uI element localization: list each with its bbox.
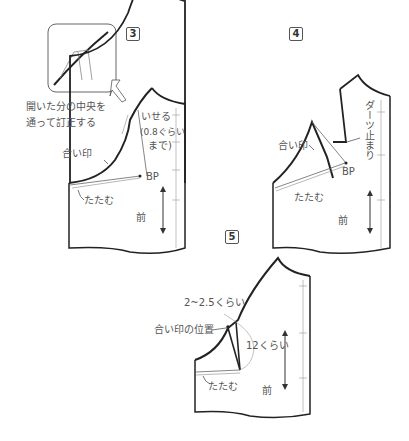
ease-amount-label: (0.8ぐらい <box>140 126 185 138</box>
notch-label: 合い印 <box>62 148 92 160</box>
length-label: 12くらい <box>246 340 289 352</box>
fold-label: たたむ <box>294 192 324 204</box>
step-number-3: 3 <box>126 27 140 41</box>
bp-label: BP <box>342 166 355 178</box>
ease-until-label: まで) <box>148 140 172 152</box>
front-label: 前 <box>262 385 272 397</box>
instruction-line-2: 通って訂正する <box>26 117 96 129</box>
fold-label: たたむ <box>208 381 238 393</box>
dart-end-label: ダーツ止まり <box>362 100 374 160</box>
fold-label: たたむ <box>84 195 114 207</box>
bp-label: BP <box>146 171 159 183</box>
front-label: 前 <box>136 212 146 224</box>
notch-position-label: 合い印の位置 <box>154 324 214 336</box>
step-number-4: 4 <box>289 27 303 41</box>
offset-label: 2~2.5くらい <box>184 297 245 309</box>
instruction-line-1: 開いた分の中央を <box>26 101 106 113</box>
notch-label: 合い印 <box>278 140 308 152</box>
panel-5-pattern <box>195 258 310 418</box>
step-number-5: 5 <box>225 230 239 244</box>
ease-label: いせる <box>141 111 171 123</box>
front-label: 前 <box>338 215 348 227</box>
